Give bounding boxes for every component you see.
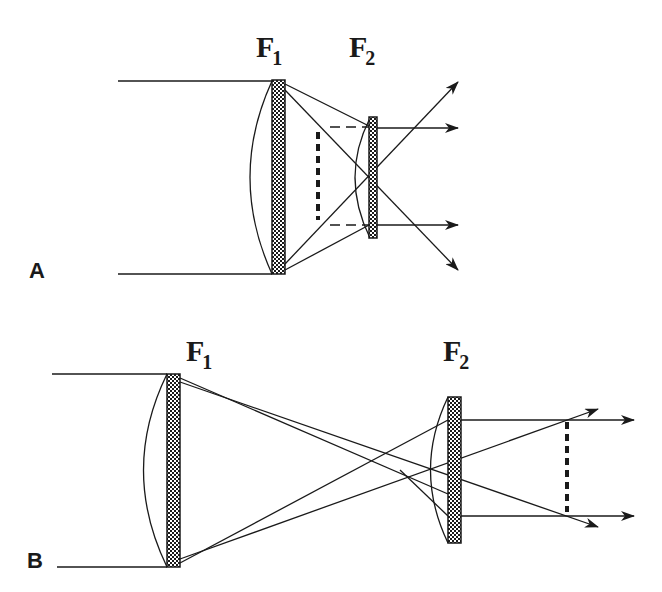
lens-f2-body bbox=[369, 117, 377, 238]
ray-b2 bbox=[180, 382, 598, 527]
lens-f2-body bbox=[448, 397, 461, 543]
diagram-drawing bbox=[0, 0, 662, 592]
lens-label-sub: 2 bbox=[365, 47, 375, 69]
lens-label-sub: 1 bbox=[202, 351, 212, 373]
lens-f1-body bbox=[167, 374, 180, 567]
panel-a bbox=[118, 80, 458, 274]
lens-f1-body bbox=[272, 80, 285, 274]
label-f1-a: F1 bbox=[256, 30, 284, 64]
lens-label-sub: 2 bbox=[459, 351, 469, 373]
ray-a3 bbox=[285, 224, 371, 270]
panel-label-a: A bbox=[29, 258, 45, 284]
ray-b5 bbox=[400, 470, 448, 516]
ray-b4 bbox=[180, 409, 598, 559]
lens-f1-curve bbox=[144, 374, 168, 567]
ray-b3 bbox=[180, 420, 448, 563]
lens-f2-curve bbox=[355, 118, 370, 238]
label-f2-b: F2 bbox=[443, 334, 471, 368]
label-f1-b: F1 bbox=[186, 334, 214, 368]
label-f2-a: F2 bbox=[349, 30, 377, 64]
panel-label-b: B bbox=[27, 548, 43, 574]
lens-f1-curve bbox=[250, 81, 272, 274]
ray-a1 bbox=[285, 84, 371, 127]
optical-diagram: F1 F2 A F1 F2 B bbox=[0, 0, 662, 592]
lens-label-sub: 1 bbox=[272, 47, 282, 69]
panel-b bbox=[52, 374, 634, 567]
